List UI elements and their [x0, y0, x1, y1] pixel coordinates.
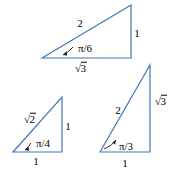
- pi-over-3-angle-label: π/3: [119, 141, 133, 152]
- pi-over-6-hypotenuse-label: 2: [77, 18, 83, 29]
- pi-over-4-hypotenuse-label: √2: [24, 113, 36, 126]
- pi-over-6-angle-arrowhead: [63, 51, 67, 55]
- radicand: 2: [30, 113, 37, 126]
- pi-over-6-angle-label: π/6: [78, 43, 92, 54]
- triangles-drawing: [0, 0, 181, 171]
- pi-over-4-adjacent-label: 1: [33, 156, 39, 167]
- pi-over-4-angle-label: π/4: [36, 138, 50, 149]
- pi-over-3-hypotenuse-label: 2: [115, 105, 121, 116]
- triangles-figure: 2 1 √3 π/6 √2 1 1 π/4 2 √3 1 π/3: [0, 0, 181, 171]
- pi-over-3-opposite-label: √3: [155, 95, 167, 108]
- pi-over-4-opposite-label: 1: [65, 121, 71, 132]
- radicand: 3: [161, 95, 168, 108]
- pi-over-3-adjacent-label: 1: [122, 158, 128, 169]
- pi-over-6-opposite-label: 1: [134, 28, 140, 39]
- pi-over-4-angle-arrowhead: [25, 147, 29, 151]
- radicand: 3: [81, 62, 88, 75]
- pi-over-6-adjacent-label: √3: [75, 62, 87, 75]
